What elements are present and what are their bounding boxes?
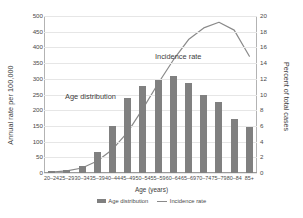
y-axis-right-tick-label: 20: [260, 12, 282, 19]
gridline: [44, 47, 257, 48]
y-axis-right-title: Percent of total cases: [277, 62, 291, 162]
bar: [79, 166, 86, 173]
y-axis-left-tick-label: 400: [21, 44, 43, 51]
x-axis-tick-label: 40–44: [105, 175, 120, 181]
x-axis-title: Age (years): [0, 186, 303, 193]
x-axis-tick-label: 70–74: [196, 175, 211, 181]
bar: [94, 152, 101, 173]
legend-label-incidence-rate: Incidence rate: [170, 198, 206, 204]
gridline: [44, 63, 257, 64]
annotation-incidence-rate: Incidence rate: [155, 52, 201, 61]
bar: [48, 171, 55, 173]
x-axis-tick-label: 60–64: [166, 175, 181, 181]
gridline: [44, 110, 257, 111]
gridline: [44, 32, 257, 33]
legend-item-age-distribution: Age distribution: [97, 198, 148, 204]
gridline: [44, 157, 257, 158]
bar: [231, 119, 238, 173]
x-axis-tick-label: 65–69: [181, 175, 196, 181]
legend-item-incidence-rate: Incidence rate: [157, 198, 206, 204]
x-axis-tick-label: 80–84: [227, 175, 242, 181]
bar: [124, 98, 131, 173]
x-axis-tick-label: 75–79: [211, 175, 226, 181]
bar: [109, 126, 116, 173]
bar: [170, 76, 177, 173]
x-axis-tick-label: 55–59: [151, 175, 166, 181]
y-axis-left-tick-label: 250: [21, 91, 43, 98]
x-axis-tick-label: 20–24: [44, 175, 59, 181]
y-axis-right-tick-label: 16: [260, 44, 282, 51]
y-axis-left-title-text: Annual rate per 100,000: [6, 50, 15, 160]
chart-legend: Age distribution Incidence rate: [0, 198, 303, 204]
y-axis-left-tick-label: 150: [21, 122, 43, 129]
x-axis-tick-label: 25–29: [59, 175, 74, 181]
gridline: [44, 173, 257, 174]
gridline: [44, 142, 257, 143]
y-axis-left-title: Annual rate per 100,000: [6, 0, 20, 50]
gridline: [44, 79, 257, 80]
y-axis-left-tick-label: 200: [21, 107, 43, 114]
y-axis-right-tick-label: 0: [260, 169, 282, 176]
y-axis-left-tick-label: 450: [21, 28, 43, 35]
x-axis-tick-label: 35–39: [90, 175, 105, 181]
y-axis-left-tick-label: 100: [21, 138, 43, 145]
legend-label-age-distribution: Age distribution: [108, 198, 148, 204]
y-axis-right-tick-label: 18: [260, 28, 282, 35]
y-axis-left-tick-label: 50: [21, 154, 43, 161]
x-axis-tick-label: 85+: [245, 175, 254, 181]
y-axis-left-tick-label: 300: [21, 75, 43, 82]
y-axis-left-tick-label: 500: [21, 12, 43, 19]
x-axis-tick-label: 30–34: [75, 175, 90, 181]
bar-swatch-icon: [97, 199, 106, 203]
bar: [215, 102, 222, 173]
gridline: [44, 16, 257, 17]
x-axis-tick-label: 45–49: [120, 175, 135, 181]
y-axis-left-tick-label: 0: [21, 169, 43, 176]
bar: [200, 95, 207, 173]
bar: [246, 127, 253, 173]
bar: [185, 83, 192, 173]
bar: [139, 86, 146, 173]
annotation-age-distribution: Age distribution: [65, 92, 116, 101]
bar: [63, 170, 70, 173]
bar: [155, 80, 162, 173]
y-axis-left-tick-label: 350: [21, 59, 43, 66]
gridline: [44, 126, 257, 127]
x-axis-tick-label: 50–54: [135, 175, 150, 181]
line-swatch-icon: [157, 201, 167, 202]
chart-figure: Annual rate per 100,000 Percent of total…: [0, 0, 303, 218]
